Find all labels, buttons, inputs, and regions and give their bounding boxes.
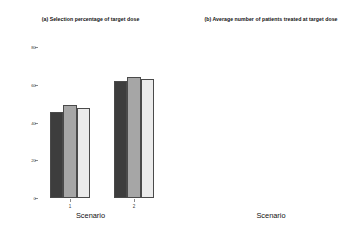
- panel-a-x-axis-label: Scenario: [0, 211, 181, 220]
- panel-a-title: (a) Selection percentage of target dose: [0, 16, 181, 22]
- panel-b-title: (b) Average number of patients treated a…: [181, 16, 361, 22]
- bar: [63, 105, 77, 198]
- bar: [114, 81, 128, 198]
- y-tick-label: 60: [31, 82, 36, 87]
- x-tick-label: 1: [69, 204, 72, 209]
- y-tick-label: 20: [31, 158, 36, 163]
- y-tick-label: 0: [34, 196, 36, 201]
- panel-b-x-axis-label: Scenario: [181, 211, 361, 220]
- x-tick-mark: [70, 199, 71, 202]
- bar: [77, 108, 91, 198]
- panel-a-plot-area: 02040608012: [38, 47, 166, 199]
- bar: [141, 79, 155, 198]
- x-tick-mark: [134, 199, 135, 202]
- bar: [127, 77, 141, 198]
- y-tick-label: 40: [31, 120, 36, 125]
- chart-panel-a: (a) Selection percentage of target dose …: [0, 0, 181, 237]
- figure-canvas: (a) Selection percentage of target dose …: [0, 0, 361, 237]
- bar: [50, 112, 64, 198]
- y-tick-label: 80: [31, 45, 36, 50]
- x-tick-label: 2: [133, 204, 136, 209]
- chart-panel-b: (b) Average number of patients treated a…: [181, 0, 361, 237]
